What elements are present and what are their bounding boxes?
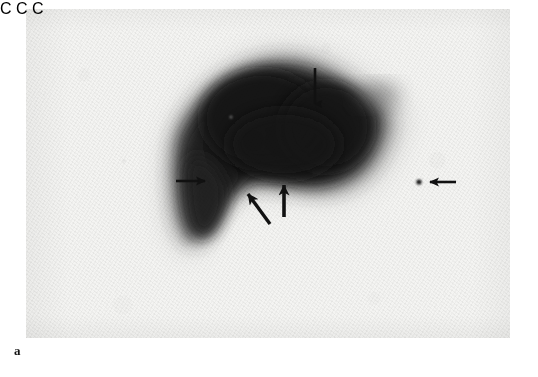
figure-root: C C C a xyxy=(0,0,538,377)
radiotracer-uptake-blob xyxy=(26,9,510,338)
panel-label: a xyxy=(14,344,21,357)
scintigraphy-scan-plate xyxy=(26,9,510,338)
marker-c-top-label: C xyxy=(0,0,12,17)
isolated-focal-uptake-dot xyxy=(416,179,421,184)
